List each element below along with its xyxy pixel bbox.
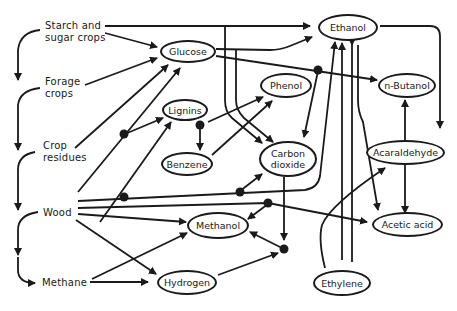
node-carbon-dioxide: Carbon dioxide — [259, 141, 317, 177]
process-dot-residues — [120, 130, 129, 139]
node-glucose: Glucose — [160, 40, 216, 63]
arrow-dot-to-methanol — [250, 232, 282, 248]
node-acetic-acid: Acetic acid — [372, 212, 443, 237]
node-hydrogen: Hydrogen — [157, 270, 217, 295]
arrow-hydrogen-to-dot — [218, 253, 278, 275]
arrow-glucose-to-ethanol — [216, 37, 312, 50]
source-methane: Methane — [42, 277, 87, 289]
node-ethylene: Ethylene — [313, 270, 371, 296]
process-dot-wood-lignins — [120, 193, 129, 202]
node-phenol: Phenol — [260, 73, 312, 98]
arrow-methane-right — [18, 257, 35, 283]
process-dot-wood-methanol — [264, 199, 273, 208]
process-dot-methanol-synthesis — [280, 245, 289, 254]
arrow-benzene-to-phenol — [212, 101, 272, 155]
arrow-residues-to-wood — [18, 152, 35, 210]
node-ethanol: Ethanol — [318, 14, 378, 41]
arrow-forage-to-residues — [18, 88, 40, 150]
process-dot-wood-co2 — [236, 188, 245, 197]
arrow-wood-to-ethanol-top — [78, 42, 335, 201]
arrow-forage-to-glucose — [85, 58, 157, 85]
node-benzene: Benzene — [161, 152, 213, 176]
source-wood: Wood — [43, 207, 72, 219]
arrow-wood-to-hydrogen — [76, 220, 156, 274]
source-forage-crops: Forage crops — [45, 76, 80, 100]
source-starch-sugar-crops: Starch and sugar crops — [45, 20, 106, 44]
arrow-dot-to-lignins — [125, 118, 163, 134]
source-crop-residues: Crop residues — [43, 140, 87, 164]
node-lignins: Lignins — [162, 99, 208, 121]
arrow-wood-to-methane-down — [18, 212, 38, 255]
arrow-wood-dot-to-co2 — [240, 174, 262, 191]
node-n-butanol: n-Butanol — [378, 73, 436, 98]
arrow-wood-to-methanol — [78, 214, 186, 222]
arrow-starch-to-glucose — [105, 33, 157, 47]
node-methanol: Methanol — [187, 212, 249, 239]
arrow-starch-to-forage — [18, 30, 40, 80]
node-acaraldehyde: Acaraldehyde — [366, 140, 445, 165]
process-dot-glucose-nbutanol — [314, 66, 323, 75]
process-dot-lignins — [196, 121, 205, 130]
